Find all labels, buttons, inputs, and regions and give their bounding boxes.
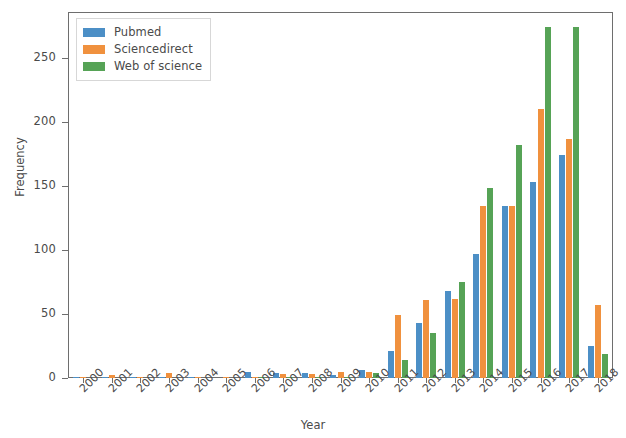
y-tick-label: 0 <box>18 370 56 384</box>
bar <box>559 155 565 378</box>
legend-label: Web of science <box>114 59 202 73</box>
bar-chart-figure: 050100150200250 Frequency 20002001200220… <box>0 0 626 438</box>
chart-legend: PubmedSciencedirectWeb of science <box>76 18 211 81</box>
bar <box>423 300 429 378</box>
bar <box>516 145 522 378</box>
y-axis-label: Frequency <box>13 107 27 227</box>
bar <box>473 254 479 378</box>
legend-swatch-icon <box>83 62 105 71</box>
bar <box>459 282 465 378</box>
bar <box>509 206 515 378</box>
legend-label: Sciencedirect <box>114 42 193 56</box>
bar <box>480 206 486 378</box>
bar <box>73 377 79 378</box>
bar <box>445 291 451 378</box>
legend-swatch-icon <box>83 28 105 37</box>
bar <box>502 206 508 378</box>
bar <box>573 27 579 378</box>
bar <box>595 305 601 378</box>
bar <box>452 299 458 378</box>
bar <box>487 188 493 378</box>
legend-item: Sciencedirect <box>83 41 202 57</box>
legend-label: Pubmed <box>114 25 162 39</box>
legend-swatch-icon <box>83 45 105 54</box>
legend-item: Pubmed <box>83 24 202 40</box>
bar <box>538 109 544 378</box>
y-tick-label: 100 <box>18 242 56 256</box>
bar <box>545 27 551 378</box>
x-axis-label: Year <box>0 418 626 432</box>
y-tick-label: 50 <box>18 306 56 320</box>
bar <box>530 182 536 378</box>
bar <box>566 139 572 378</box>
bar <box>395 315 401 378</box>
legend-item: Web of science <box>83 58 202 74</box>
y-axis: 050100150200250 <box>0 0 68 438</box>
y-tick-label: 250 <box>18 50 56 64</box>
y-tick-mark <box>62 378 68 379</box>
